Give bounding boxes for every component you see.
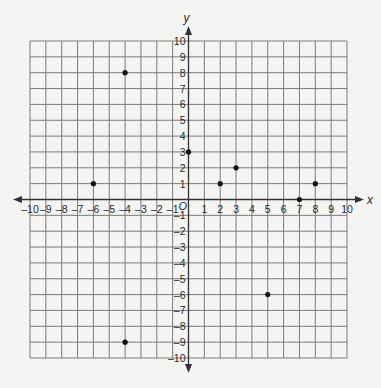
x-tick-label: 9 xyxy=(328,203,334,215)
data-point xyxy=(123,70,128,75)
x-tick-label: 4 xyxy=(249,203,255,215)
data-point xyxy=(313,181,318,186)
y-tick-label: –3 xyxy=(174,241,186,253)
y-tick-label: –1 xyxy=(174,209,186,221)
data-point xyxy=(265,292,270,297)
data-point xyxy=(186,149,191,154)
y-tick-label: 5 xyxy=(180,114,186,126)
data-point xyxy=(218,181,223,186)
x-tick-label: –10 xyxy=(21,203,39,215)
y-tick-label: 10 xyxy=(174,35,186,47)
x-tick-label: 7 xyxy=(297,203,303,215)
x-tick-label: –5 xyxy=(103,203,115,215)
x-tick-label: 6 xyxy=(281,203,287,215)
y-tick-label: 1 xyxy=(180,178,186,190)
y-tick-label: 8 xyxy=(180,67,186,79)
coordinate-plane: x y O –10–9–8–7–6–5–4–3–2–112345678910–1… xyxy=(0,0,381,388)
x-tick-label: 3 xyxy=(233,203,239,215)
y-tick-label: –6 xyxy=(174,289,186,301)
y-tick-label: –10 xyxy=(168,352,186,364)
y-tick-label: 3 xyxy=(180,146,186,158)
y-tick-label: –5 xyxy=(174,273,186,285)
x-tick-label: 2 xyxy=(217,203,223,215)
y-tick-label: 6 xyxy=(180,98,186,110)
data-point xyxy=(233,165,238,170)
data-point xyxy=(123,340,128,345)
data-point xyxy=(91,181,96,186)
x-tick-label: –8 xyxy=(56,203,68,215)
y-tick-label: –7 xyxy=(174,304,186,316)
x-tick-label: 1 xyxy=(201,203,207,215)
y-tick-label: –2 xyxy=(174,225,186,237)
x-tick-label: –6 xyxy=(88,203,100,215)
y-tick-label: 7 xyxy=(180,83,186,95)
x-tick-label: –4 xyxy=(119,203,131,215)
y-tick-label: 2 xyxy=(180,162,186,174)
y-tick-label: –8 xyxy=(174,320,186,332)
y-tick-label: 9 xyxy=(180,51,186,63)
x-axis-label: x xyxy=(366,193,374,207)
x-tick-label: 5 xyxy=(265,203,271,215)
x-axis-arrow-right-icon xyxy=(355,196,364,203)
y-tick-label: 4 xyxy=(180,130,186,142)
x-tick-label: 8 xyxy=(312,203,318,215)
x-tick-label: –7 xyxy=(72,203,84,215)
x-tick-label: –9 xyxy=(40,203,52,215)
y-tick-label: –9 xyxy=(174,336,186,348)
x-tick-label: –2 xyxy=(151,203,163,215)
y-tick-label: –4 xyxy=(174,257,186,269)
data-point xyxy=(297,197,302,202)
axes: x y O xyxy=(13,11,374,373)
y-axis-arrow-down-icon xyxy=(185,364,192,373)
y-axis-arrow-up-icon xyxy=(185,26,192,35)
y-axis-label: y xyxy=(183,11,191,25)
x-tick-label: –3 xyxy=(135,203,147,215)
x-tick-label: 10 xyxy=(341,203,353,215)
